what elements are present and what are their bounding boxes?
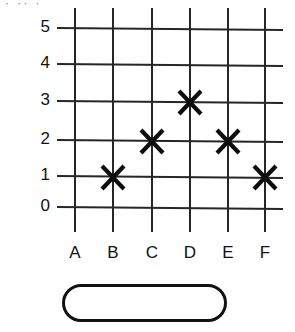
y-tick-label-3: 3 — [41, 90, 50, 109]
gridline-horizontal-3 — [57, 101, 283, 103]
x-tick-label-b: B — [107, 243, 118, 262]
y-axis-tick-labels: 5 4 3 2 1 0 — [41, 17, 50, 215]
y-tick-label-1: 1 — [41, 165, 50, 184]
x-tick-label-d: D — [184, 243, 196, 262]
gridline-horizontal-1 — [57, 176, 283, 178]
y-tick-label-4: 4 — [41, 53, 50, 72]
chart-canvas: 5 4 3 2 1 0 A B C D E F — [0, 0, 295, 270]
y-tick-label-2: 2 — [41, 129, 50, 148]
x-tick-label-c: C — [146, 243, 158, 262]
y-tick-label-5: 5 — [41, 17, 50, 36]
gridline-horizontal-2 — [57, 140, 283, 142]
scatter-chart: 5 4 3 2 1 0 A B C D E F — [0, 0, 295, 270]
gridline-horizontal-4 — [57, 64, 283, 66]
vertical-gridlines — [75, 8, 265, 232]
x-tick-label-f: F — [260, 243, 270, 262]
answer-input-box[interactable] — [62, 284, 227, 322]
answer-box-container — [62, 284, 227, 322]
x-tick-label-a: A — [69, 243, 81, 262]
x-tick-label-e: E — [222, 243, 233, 262]
gridline-horizontal-0 — [57, 207, 283, 209]
gridline-horizontal-5 — [57, 28, 283, 30]
horizontal-gridlines — [57, 28, 283, 209]
y-tick-label-0: 0 — [41, 196, 50, 215]
x-axis-tick-labels: A B C D E F — [69, 243, 270, 262]
